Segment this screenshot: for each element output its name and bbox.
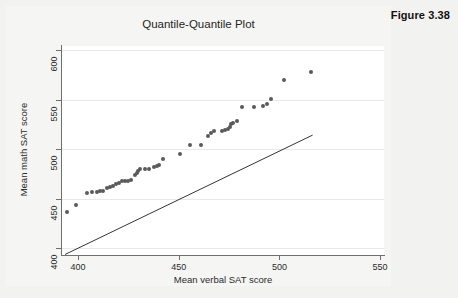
x-tick-label: 400 <box>58 262 98 272</box>
scatter-point <box>309 70 313 74</box>
x-tick <box>78 256 79 260</box>
y-tick-label: 550 <box>49 99 59 129</box>
x-tick <box>380 256 381 260</box>
scatter-point <box>188 143 192 147</box>
scatter-point <box>178 152 182 156</box>
x-tick <box>179 256 180 260</box>
scatter-point <box>74 203 78 207</box>
x-tick-label: 550 <box>360 262 400 272</box>
y-axis-line <box>61 45 62 256</box>
x-tick-label: 450 <box>159 262 199 272</box>
plot-panel <box>62 46 384 255</box>
y-tick-label: 450 <box>49 198 59 228</box>
reference-line <box>62 46 384 255</box>
figure-caption: Figure 3.38 <box>391 9 450 21</box>
scatter-point <box>157 163 161 167</box>
graph-card: Quantile-Quantile Plot 400450500550600 4… <box>6 6 391 286</box>
scatter-point <box>269 97 273 101</box>
scatter-point <box>199 143 203 147</box>
y-axis-title: Mean math SAT score <box>18 90 29 210</box>
x-tick-label: 500 <box>259 262 299 272</box>
scatter-point <box>90 190 94 194</box>
scatter-point <box>138 167 142 171</box>
scatter-point <box>85 191 89 195</box>
y-tick-label: 600 <box>49 49 59 79</box>
figure-root: Quantile-Quantile Plot 400450500550600 4… <box>0 0 458 298</box>
scatter-point <box>161 157 165 161</box>
scatter-point <box>143 167 147 171</box>
scatter-point <box>147 167 151 171</box>
x-tick <box>279 256 280 260</box>
x-axis-line <box>61 255 385 256</box>
y-tick-label: 500 <box>49 148 59 178</box>
page-title: Quantile-Quantile Plot <box>6 18 391 30</box>
x-axis-title: Mean verbal SAT score <box>62 274 384 285</box>
